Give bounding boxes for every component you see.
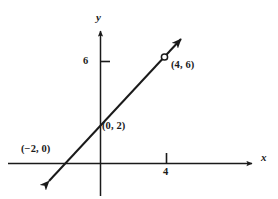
point-label-neg2-0: (−2, 0) xyxy=(21,144,50,155)
y-tick-label-6: 6 xyxy=(83,56,88,67)
point-label-0-2: (0, 2) xyxy=(102,121,125,132)
graph-figure: y x 6 4 (4, 6) (0, 2) (−2, 0) xyxy=(0,0,278,199)
point-label-4-6: (4, 6) xyxy=(171,60,194,71)
open-point-marker-4-6 xyxy=(161,54,167,60)
x-tick-label-4: 4 xyxy=(163,167,168,178)
coordinate-plane-svg xyxy=(0,0,278,199)
y-axis-label: y xyxy=(96,12,101,23)
x-axis-label: x xyxy=(261,152,267,163)
plotted-line xyxy=(49,39,181,181)
